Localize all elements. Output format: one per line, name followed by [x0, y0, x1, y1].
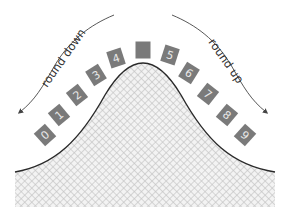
digit-box: 8 — [216, 104, 238, 127]
digit-box-background — [136, 42, 151, 59]
blank-digit-box — [136, 42, 151, 59]
digit-box: 6 — [178, 62, 200, 84]
digit-box: 7 — [197, 83, 219, 106]
rounding-bell-curve-diagram: round down round up 0123456789 — [0, 0, 290, 215]
digit-box: 3 — [85, 64, 107, 86]
digit-box: 9 — [234, 124, 257, 147]
digit-box: 5 — [160, 45, 180, 66]
round-down-label: round down — [38, 26, 89, 90]
digit-box: 4 — [106, 48, 126, 69]
digit-box: 1 — [48, 104, 70, 127]
digit-box: 2 — [66, 84, 88, 107]
round-up-label: round up — [206, 36, 247, 86]
digit-box: 0 — [34, 124, 57, 147]
